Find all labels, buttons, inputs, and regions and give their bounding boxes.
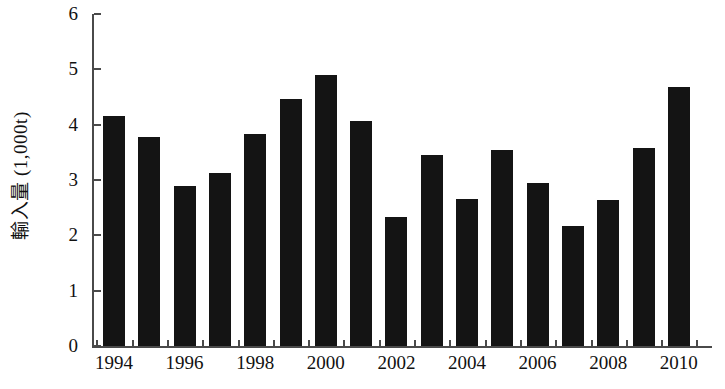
bar [209, 173, 231, 346]
y-tick-label: 0 [69, 335, 79, 357]
x-tick-mark [591, 340, 593, 347]
x-tick-mark [520, 340, 522, 347]
x-tick-mark [96, 340, 98, 347]
bar [527, 183, 549, 346]
y-tick-mark [94, 13, 101, 15]
x-axis-line [92, 346, 712, 348]
y-axis-title: 輸入量 (1,000t) [0, 0, 36, 350]
x-tick-mark [626, 340, 628, 347]
y-tick-label: 5 [69, 58, 79, 80]
x-tick-mark [167, 340, 169, 347]
bar-chart: 輸入量 (1,000t) 0123456 1994199619982000200… [0, 0, 725, 389]
x-tick-mark [696, 340, 698, 347]
bar [103, 116, 125, 346]
bar [315, 75, 337, 346]
bar [280, 99, 302, 346]
x-tick-mark [661, 340, 663, 347]
x-tick-label: 1998 [236, 352, 274, 374]
y-axis-line [92, 14, 94, 348]
x-tick-mark [238, 340, 240, 347]
bar [491, 150, 513, 346]
x-tick-mark [379, 340, 381, 347]
bar [421, 155, 443, 346]
x-tick-mark [132, 340, 134, 347]
y-tick-label: 6 [69, 3, 79, 25]
bar [350, 121, 372, 346]
x-tick-label: 2002 [377, 352, 415, 374]
y-axis-title-label: 輸入量 (1,000t) [5, 111, 32, 239]
y-axis-tick-labels: 0123456 [38, 0, 86, 389]
x-tick-mark [555, 340, 557, 347]
x-tick-mark [202, 340, 204, 347]
bar [668, 87, 690, 346]
y-tick-mark [94, 234, 101, 236]
x-axis-tick-labels: 199419961998200020022004200620082010 [92, 352, 712, 386]
x-tick-mark [414, 340, 416, 347]
plot-area [92, 14, 712, 348]
bar [385, 217, 407, 346]
bar [174, 186, 196, 346]
bar [633, 148, 655, 346]
bar [138, 137, 160, 346]
bar [244, 134, 266, 346]
x-tick-label: 2010 [660, 352, 698, 374]
x-tick-label: 1996 [166, 352, 204, 374]
y-tick-mark [94, 290, 101, 292]
x-tick-label: 2000 [307, 352, 345, 374]
x-tick-mark [308, 340, 310, 347]
x-tick-mark [273, 340, 275, 347]
y-tick-label: 4 [69, 114, 79, 136]
x-tick-mark [343, 340, 345, 347]
y-tick-mark [94, 179, 101, 181]
x-tick-label: 2008 [589, 352, 627, 374]
y-tick-label: 2 [69, 224, 79, 246]
bar [597, 200, 619, 346]
x-tick-label: 2004 [448, 352, 486, 374]
y-tick-mark [94, 124, 101, 126]
bar [562, 226, 584, 346]
x-tick-mark [485, 340, 487, 347]
x-tick-label: 2006 [519, 352, 557, 374]
x-tick-label: 1994 [95, 352, 133, 374]
bar [456, 199, 478, 346]
y-tick-label: 3 [69, 169, 79, 191]
y-tick-mark [94, 68, 101, 70]
y-tick-label: 1 [69, 280, 79, 302]
x-tick-mark [449, 340, 451, 347]
